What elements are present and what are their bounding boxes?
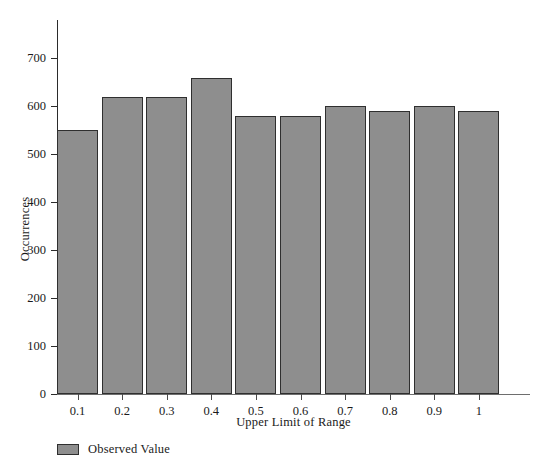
y-axis-tick-label: 500 — [6, 145, 46, 163]
y-axis-tick: 0 — [51, 394, 57, 395]
y-axis-tick-label: 100 — [6, 337, 46, 355]
x-axis-tick — [167, 394, 168, 400]
bar — [235, 116, 276, 394]
x-axis-tick — [345, 394, 346, 400]
y-axis-tick-label: 200 — [6, 289, 46, 307]
x-axis-line — [57, 394, 530, 395]
bar — [191, 78, 232, 394]
y-axis-tick: 600 — [51, 106, 57, 107]
legend-swatch — [57, 444, 79, 455]
bar — [414, 106, 455, 394]
y-axis-tick: 700 — [51, 58, 57, 59]
chart-legend: Observed Value — [57, 440, 170, 458]
bar-chart: Occurrences 0100200300400500600700 0.10.… — [0, 0, 553, 466]
x-axis-tick — [434, 394, 435, 400]
bar — [102, 97, 143, 394]
x-axis-tick — [78, 394, 79, 400]
legend-label: Observed Value — [88, 440, 170, 458]
bar — [57, 130, 98, 394]
bar — [146, 97, 187, 394]
x-axis-tick — [479, 394, 480, 400]
x-axis-tick — [301, 394, 302, 400]
x-axis-tick — [390, 394, 391, 400]
x-axis-title: Upper Limit of Range — [57, 414, 530, 430]
y-axis-tick-label: 400 — [6, 193, 46, 211]
bar — [458, 111, 499, 394]
legend-item: Observed Value — [57, 440, 170, 458]
y-axis-tick-label: 0 — [6, 385, 46, 403]
plot-area: 0100200300400500600700 0.10.20.30.40.50.… — [57, 20, 530, 394]
bar — [280, 116, 321, 394]
y-axis-tick-label: 700 — [6, 49, 46, 67]
y-axis-tick-label: 600 — [6, 97, 46, 115]
x-axis-tick — [122, 394, 123, 400]
bar — [325, 106, 366, 394]
bar — [369, 111, 410, 394]
x-axis-tick — [256, 394, 257, 400]
y-axis-tick-label: 300 — [6, 241, 46, 259]
x-axis-tick — [211, 394, 212, 400]
